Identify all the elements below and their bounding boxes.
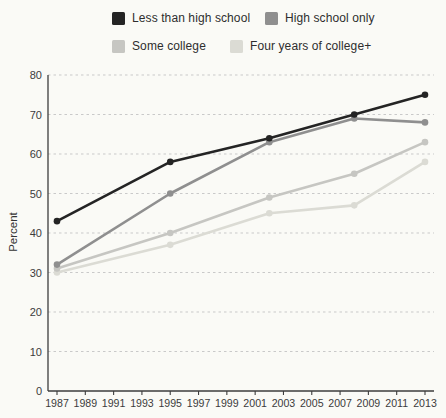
- y-tick-label-60: 60: [30, 148, 42, 160]
- y-tick-label-40: 40: [30, 227, 42, 239]
- legend-item-four-years-of-college: Four years of college+: [230, 39, 371, 53]
- x-tick-label-1993: 1993: [130, 397, 154, 409]
- x-tick-label-1991: 1991: [102, 397, 126, 409]
- legend-swatch-icon: [112, 40, 125, 53]
- x-tick-label-2011: 2011: [385, 397, 408, 409]
- x-tick-label-2001: 2001: [243, 397, 267, 409]
- legend-swatch-icon: [230, 40, 243, 53]
- data-point-1995: [167, 230, 174, 237]
- legend-swatch-icon: [265, 12, 278, 25]
- y-tick-label-70: 70: [30, 109, 42, 121]
- legend-label: Four years of college+: [250, 39, 371, 53]
- y-tick-label-30: 30: [30, 267, 42, 279]
- legend-item-high-school-only: High school only: [265, 11, 375, 25]
- y-tick-label-80: 80: [30, 69, 42, 81]
- x-tick-label-2013: 2013: [413, 397, 437, 409]
- series-line: [57, 162, 425, 273]
- x-tick-label-1997: 1997: [187, 397, 211, 409]
- data-point-1995: [167, 159, 174, 166]
- data-point-2002: [266, 194, 273, 201]
- legend-swatch-icon: [112, 12, 125, 25]
- data-point-2002: [266, 135, 273, 142]
- y-tick-label-50: 50: [30, 188, 42, 200]
- chart-canvas: Less than high schoolHigh school onlySom…: [0, 0, 446, 418]
- x-tick-label-1999: 1999: [215, 397, 239, 409]
- x-tick-label-1987: 1987: [45, 397, 69, 409]
- data-point-2002: [266, 210, 273, 217]
- data-point-1987: [54, 261, 61, 268]
- y-tick-label-20: 20: [30, 306, 42, 318]
- line-chart-svg: 0102030405060708019871989199119931995199…: [0, 0, 446, 418]
- legend-item-some-college: Some college: [112, 39, 206, 53]
- y-tick-label-0: 0: [36, 385, 42, 397]
- data-point-2013: [422, 91, 429, 98]
- legend-item-less-than-high-school: Less than high school: [112, 11, 250, 25]
- data-point-2008: [351, 202, 358, 209]
- legend-label: Less than high school: [132, 11, 250, 25]
- x-tick-label-2009: 2009: [357, 397, 381, 409]
- y-tick-label-10: 10: [30, 346, 42, 358]
- series-line: [57, 142, 425, 268]
- chart-legend: Less than high schoolHigh school onlySom…: [0, 0, 446, 62]
- legend-label: High school only: [285, 11, 375, 25]
- data-point-2013: [422, 159, 429, 166]
- x-tick-label-1989: 1989: [74, 397, 98, 409]
- data-point-2008: [351, 111, 358, 118]
- data-point-1995: [167, 190, 174, 197]
- series-four-years-of-college: [54, 159, 429, 276]
- data-point-2013: [422, 119, 429, 126]
- x-tick-label-2003: 2003: [272, 397, 296, 409]
- series-some-college: [54, 139, 429, 272]
- x-tick-label-2007: 2007: [328, 397, 352, 409]
- y-axis-title: Percent: [7, 202, 19, 262]
- series-high-school-only: [54, 115, 429, 268]
- data-point-2013: [422, 139, 429, 146]
- data-point-1995: [167, 242, 174, 249]
- x-tick-label-2005: 2005: [300, 397, 324, 409]
- legend-label: Some college: [132, 39, 206, 53]
- x-tick-label-1995: 1995: [158, 397, 182, 409]
- data-point-1987: [54, 218, 61, 225]
- data-point-2008: [351, 170, 358, 177]
